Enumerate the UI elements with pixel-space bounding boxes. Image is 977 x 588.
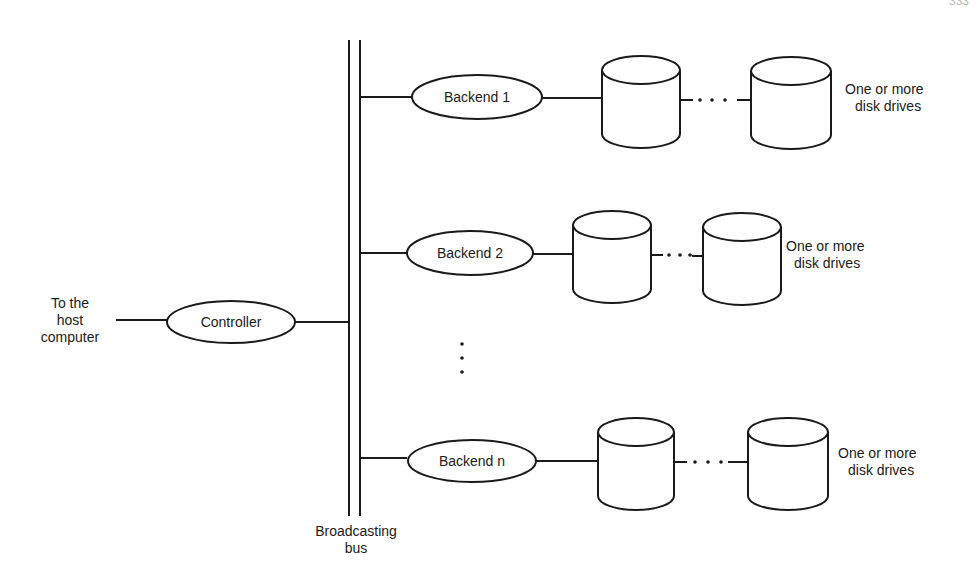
disk-drive-icon [748,418,828,510]
backend-1-node: Backend 1 [412,75,542,119]
drives-label-2: One or more disk drives [786,238,865,272]
disk-drive-icon [602,56,680,148]
backend-2-node: Backend 2 [407,231,533,275]
page-number: 333 [949,0,969,8]
drives-label-n: One or more disk drives [838,445,917,479]
controller-node: Controller [167,301,295,343]
disk-drive-icon [703,213,781,305]
bus-label: Broadcasting bus [296,523,416,557]
backend-n-node: Backend n [408,440,536,482]
vertical-ellipsis-dot [460,342,464,346]
drives-label-1: One or more disk drives [845,81,924,115]
disk-drive-icon [573,211,651,303]
host-label: To the host computer [30,295,110,346]
vertical-ellipsis-dot [460,370,464,374]
vertical-ellipsis-dot [460,356,464,360]
disk-drive-icon [751,57,831,149]
disk-drive-icon [598,418,674,510]
